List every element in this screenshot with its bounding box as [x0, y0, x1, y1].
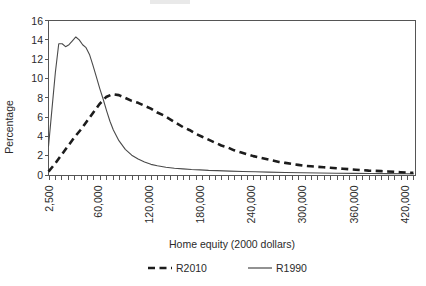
y-ticks [45, 21, 49, 176]
x-tick-label: 120,000 [143, 185, 155, 223]
y-tick-label: 14 [31, 34, 43, 46]
y-tick-label: 12 [31, 53, 43, 65]
x-tick-label: 240,000 [245, 185, 257, 223]
x-tick-labels: 2,50060,000120,000180,000240,000300,0003… [43, 185, 411, 223]
x-tick-label: 180,000 [194, 185, 206, 223]
line-chart: Percentage 16 14 12 10 8 6 4 2 0 [0, 0, 426, 286]
y-tick-label: 10 [31, 72, 43, 84]
top-artifact [150, 0, 190, 4]
x-ticks [50, 176, 414, 180]
chart-legend: R2010 R1990 [148, 262, 307, 274]
y-tick-label: 0 [37, 169, 43, 181]
y-tick-label: 2 [37, 149, 43, 161]
y-tick-label: 6 [37, 111, 43, 123]
x-tick-label: 420,000 [399, 185, 411, 223]
plot-frame [49, 21, 416, 176]
series-line-r1990 [49, 37, 414, 174]
x-tick-label: 2,500 [43, 185, 55, 211]
x-tick-label: 360,000 [348, 185, 360, 223]
series-line-r2010 [49, 94, 414, 173]
legend-label-r2010: R2010 [176, 262, 207, 274]
x-tick-label: 300,000 [296, 185, 308, 223]
x-axis-label: Home equity (2000 dollars) [169, 238, 295, 250]
y-tick-label: 8 [37, 92, 43, 104]
y-tick-labels: 16 14 12 10 8 6 4 2 0 [31, 15, 43, 181]
y-tick-label: 16 [31, 15, 43, 27]
y-tick-label: 4 [37, 130, 43, 142]
legend-label-r1990: R1990 [276, 262, 307, 274]
chart-figure: Percentage 16 14 12 10 8 6 4 2 0 [0, 0, 426, 286]
x-tick-label: 60,000 [92, 185, 104, 217]
y-axis-label: Percentage [3, 100, 15, 154]
